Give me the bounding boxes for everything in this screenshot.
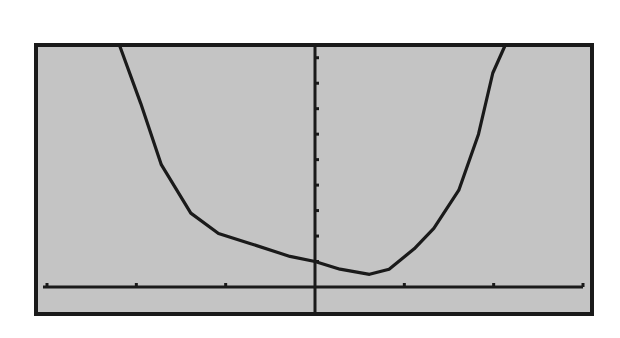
graph-screen xyxy=(0,0,620,338)
